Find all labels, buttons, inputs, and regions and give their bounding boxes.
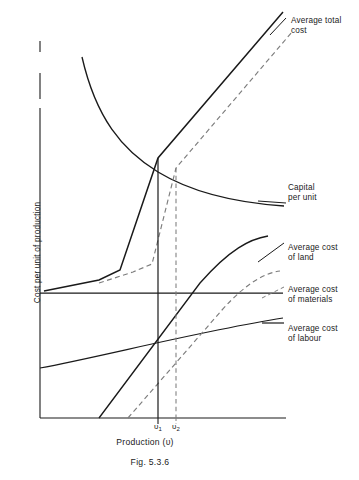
label-average-total-cost: Average total cost: [291, 16, 341, 35]
leader-line-average-cost-of-land: [258, 243, 284, 262]
label-average-cost-of-land: Average cost of land: [288, 243, 338, 262]
leader-line-capital-per-unit: [258, 201, 286, 203]
figure-caption: Fig. 5.3.6: [0, 457, 300, 467]
x-axis-title: Production (υ): [0, 437, 290, 447]
tick-label-v1-subscript: 1: [158, 426, 161, 432]
curve-capital-per-unit: [82, 57, 284, 206]
y-axis-title: Cost per unit of production: [33, 168, 42, 338]
tick-label-v1: υ1: [154, 422, 162, 431]
curve-average-cost-of-land: [99, 236, 268, 418]
leader-line-average-total-cost: [270, 18, 286, 35]
label-average-cost-of-materials: Average cost of materials: [288, 285, 338, 304]
curve-average-total-cost: [44, 12, 283, 291]
tick-label-v2: υ2: [172, 422, 180, 431]
chart-plot-area: [0, 0, 359, 480]
tick-label-v2-subscript: 2: [176, 426, 179, 432]
label-capital-per-unit: Capital per unit: [288, 183, 317, 202]
label-average-cost-of-labour: Average cost of labour: [288, 324, 338, 343]
curve-average-cost-of-labour: [40, 318, 283, 368]
figure-5-3-6: Average total cost Capital per unit Aver…: [0, 0, 359, 480]
